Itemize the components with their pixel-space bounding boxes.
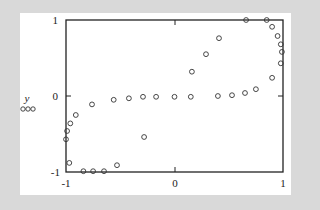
y-tick-label-mid: 0 [53, 90, 59, 102]
data-point [141, 94, 146, 99]
data-point [275, 34, 280, 39]
data-point [243, 91, 248, 96]
y-axis-label: y [24, 92, 30, 104]
data-point [115, 163, 120, 168]
data-point [111, 97, 116, 102]
data-point [188, 94, 193, 99]
data-point [254, 87, 259, 92]
x-tick-label-min: -1 [61, 177, 70, 189]
data-point [172, 94, 177, 99]
data-point [68, 121, 73, 126]
data-point [142, 135, 147, 140]
y-tick-label-max: 1 [53, 14, 59, 26]
x-tick-label-max: 1 [280, 177, 286, 189]
chart-figure: 1 0 -1 -1 0 1 x y [20, 13, 291, 195]
data-point [91, 169, 96, 174]
data-point [73, 113, 78, 118]
data-point [154, 94, 159, 99]
data-point [270, 24, 275, 29]
data-point [230, 93, 235, 98]
x-axis-label: x [172, 191, 178, 195]
y-tick-label-min: -1 [51, 166, 60, 178]
plot-frame [66, 20, 283, 172]
legend-marker-icon [21, 107, 35, 111]
data-point [127, 96, 132, 101]
data-point [90, 102, 95, 107]
data-point [102, 169, 107, 174]
scatter-plot: 1 0 -1 -1 0 1 x y [20, 13, 291, 195]
data-point [217, 36, 222, 41]
data-point [216, 94, 221, 99]
data-point [81, 169, 86, 174]
x-tick-label-mid: 0 [172, 177, 178, 189]
data-points [64, 18, 285, 174]
data-point [204, 52, 209, 57]
data-point [190, 69, 195, 74]
data-point [270, 75, 275, 80]
data-point [67, 161, 72, 166]
